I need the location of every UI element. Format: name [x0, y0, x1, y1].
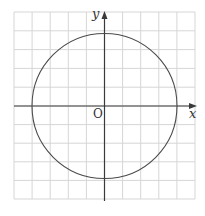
coordinate-plane: y x O	[0, 0, 205, 216]
origin-label: O	[93, 107, 103, 121]
figure: y x O	[0, 0, 205, 216]
y-axis-label: y	[91, 6, 100, 21]
x-axis-label: x	[189, 106, 197, 121]
